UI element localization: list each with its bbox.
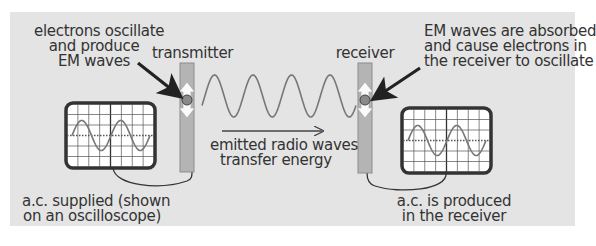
note-line: in the receiver: [392, 209, 516, 224]
note-line: the receiver to oscillate: [424, 54, 596, 69]
note-line: EM waves: [34, 54, 154, 69]
receiver-oscilloscope: [402, 108, 491, 173]
pointer-arrow-receiver: [378, 68, 420, 96]
electron-icon: [360, 95, 370, 105]
transmitter-note: electrons oscillate and produce EM waves: [34, 24, 154, 69]
electron-icon: [182, 95, 192, 105]
wave-note: emitted radio waves transfer energy: [210, 138, 342, 168]
receiver-aerial: [357, 63, 373, 173]
ac-supplied-note: a.c. supplied (shown on an oscilloscope): [22, 194, 162, 224]
receiver-note: EM waves are absorbed and cause electron…: [424, 24, 596, 69]
ac-produced-note: a.c. is produced in the receiver: [392, 194, 516, 224]
transmitter-label: transmitter: [152, 46, 222, 61]
receiver-wire: [367, 173, 446, 190]
radio-wave: [202, 75, 356, 117]
transmitter-oscilloscope: [66, 103, 155, 168]
receiver-label: receiver: [330, 46, 400, 61]
transmitter-aerial: [179, 63, 195, 172]
note-line: transfer energy: [210, 153, 342, 168]
note-line: on an oscilloscope): [22, 209, 162, 224]
